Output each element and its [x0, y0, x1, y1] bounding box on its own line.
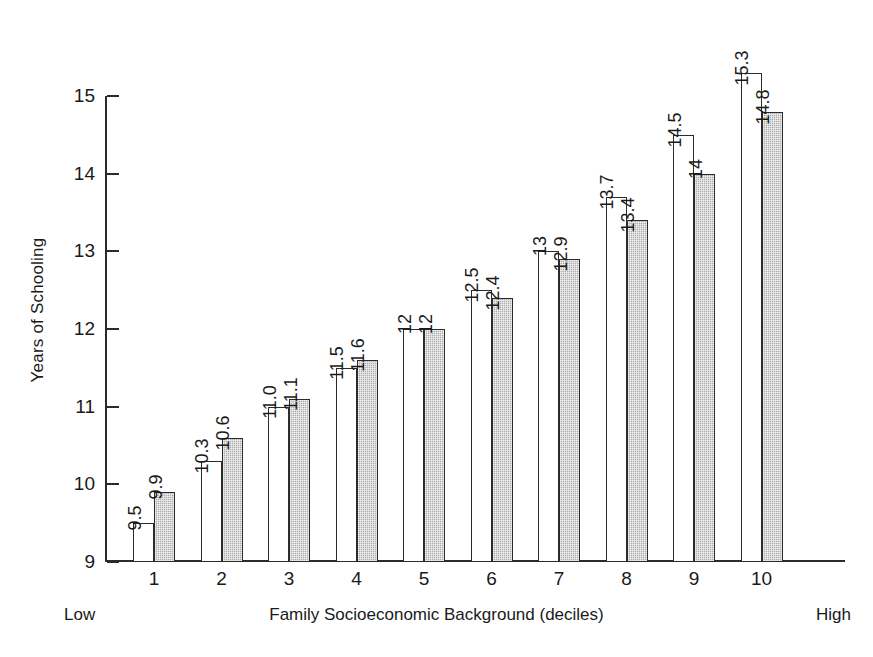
- y-tick-label: 9: [84, 551, 95, 573]
- x-tick-label-4: 4: [336, 568, 378, 590]
- x-axis-high-caption: High: [816, 605, 851, 625]
- y-tick-label: 14: [74, 163, 95, 185]
- bar-white-4: 11.5: [336, 368, 357, 562]
- x-tick-label-1: 1: [133, 568, 175, 590]
- bar-groups: 9.59.910.310.611.011.111.511.6121212.512…: [105, 96, 845, 562]
- y-tick-label: 12: [74, 318, 95, 340]
- bar-value-label: 12: [396, 314, 414, 334]
- plot-area: 9101112131415 9.59.910.310.611.011.111.5…: [105, 96, 845, 562]
- bar-value-label: 11.5: [328, 346, 346, 380]
- bar-group-4: 11.511.6: [336, 96, 378, 562]
- bar-value-label: 10.6: [214, 415, 232, 450]
- bar-value-label: 14.8: [754, 89, 772, 124]
- bar-group-5: 1212: [403, 96, 445, 562]
- bar-gray-8: 13.4: [627, 220, 648, 562]
- bar-value-label: 13.4: [619, 198, 637, 233]
- bar-gray-1: 9.9: [154, 492, 175, 562]
- y-tick-label: 10: [74, 473, 95, 495]
- bar-white-3: 11.0: [268, 407, 289, 562]
- bar-white-8: 13.7: [606, 197, 627, 562]
- y-tick-label: 11: [75, 396, 95, 418]
- bar-white-10: 15.3: [741, 73, 762, 562]
- x-tick-label-7: 7: [538, 568, 580, 590]
- bar-group-10: 15.314.8: [741, 96, 783, 562]
- bar-value-label: 13.7: [598, 174, 616, 209]
- bar-value-label: 11.1: [282, 377, 300, 411]
- bar-white-5: 12: [403, 329, 424, 562]
- bar-value-label: 14.5: [666, 112, 684, 147]
- bar-white-6: 12.5: [471, 290, 492, 562]
- x-tick-label-8: 8: [606, 568, 648, 590]
- bar-chart: Years of Schooling 9101112131415 9.59.91…: [0, 0, 873, 657]
- bar-value-label: 14: [687, 159, 705, 179]
- x-tick-label-3: 3: [268, 568, 310, 590]
- bar-group-2: 10.310.6: [201, 96, 243, 562]
- bar-gray-4: 11.6: [357, 360, 378, 562]
- bar-value-label: 12.5: [463, 268, 481, 303]
- bar-gray-3: 11.1: [289, 399, 310, 562]
- y-axis-title: Years of Schooling: [28, 210, 48, 410]
- bar-group-7: 1312.9: [538, 96, 580, 562]
- bar-value-label: 15.3: [733, 50, 751, 85]
- bar-white-9: 14.5: [673, 135, 694, 562]
- x-tick-label-10: 10: [741, 568, 783, 590]
- y-tick-label: 13: [74, 240, 95, 262]
- bar-gray-10: 14.8: [762, 112, 783, 562]
- bar-value-label: 13: [531, 236, 549, 256]
- bar-gray-5: 12: [424, 329, 445, 562]
- x-tick-label-5: 5: [403, 568, 445, 590]
- bar-value-label: 10.3: [193, 439, 211, 474]
- bar-value-label: 12.4: [484, 275, 502, 310]
- x-tick-label-2: 2: [201, 568, 243, 590]
- x-axis-title: Family Socioeconomic Background (deciles…: [0, 605, 873, 625]
- bar-value-label: 12.9: [552, 237, 570, 272]
- bar-value-label: 12: [417, 314, 435, 334]
- bar-gray-9: 14: [694, 174, 715, 562]
- bar-group-1: 9.59.9: [133, 96, 175, 562]
- bar-white-1: 9.5: [133, 523, 154, 562]
- bar-gray-6: 12.4: [492, 298, 513, 562]
- bar-value-label: 11.0: [261, 385, 279, 419]
- bar-white-2: 10.3: [201, 461, 222, 562]
- bar-value-label: 11.6: [349, 338, 367, 372]
- bar-value-label: 9.9: [147, 475, 165, 500]
- y-tick-label: 15: [74, 85, 95, 107]
- bar-gray-7: 12.9: [559, 259, 580, 562]
- bar-white-7: 13: [538, 251, 559, 562]
- bar-group-9: 14.514: [673, 96, 715, 562]
- bar-gray-2: 10.6: [222, 438, 243, 562]
- x-tick-label-6: 6: [471, 568, 513, 590]
- bar-group-3: 11.011.1: [268, 96, 310, 562]
- bar-group-8: 13.713.4: [606, 96, 648, 562]
- bar-value-label: 9.5: [126, 506, 144, 531]
- x-tick-label-9: 9: [673, 568, 715, 590]
- bar-group-6: 12.512.4: [471, 96, 513, 562]
